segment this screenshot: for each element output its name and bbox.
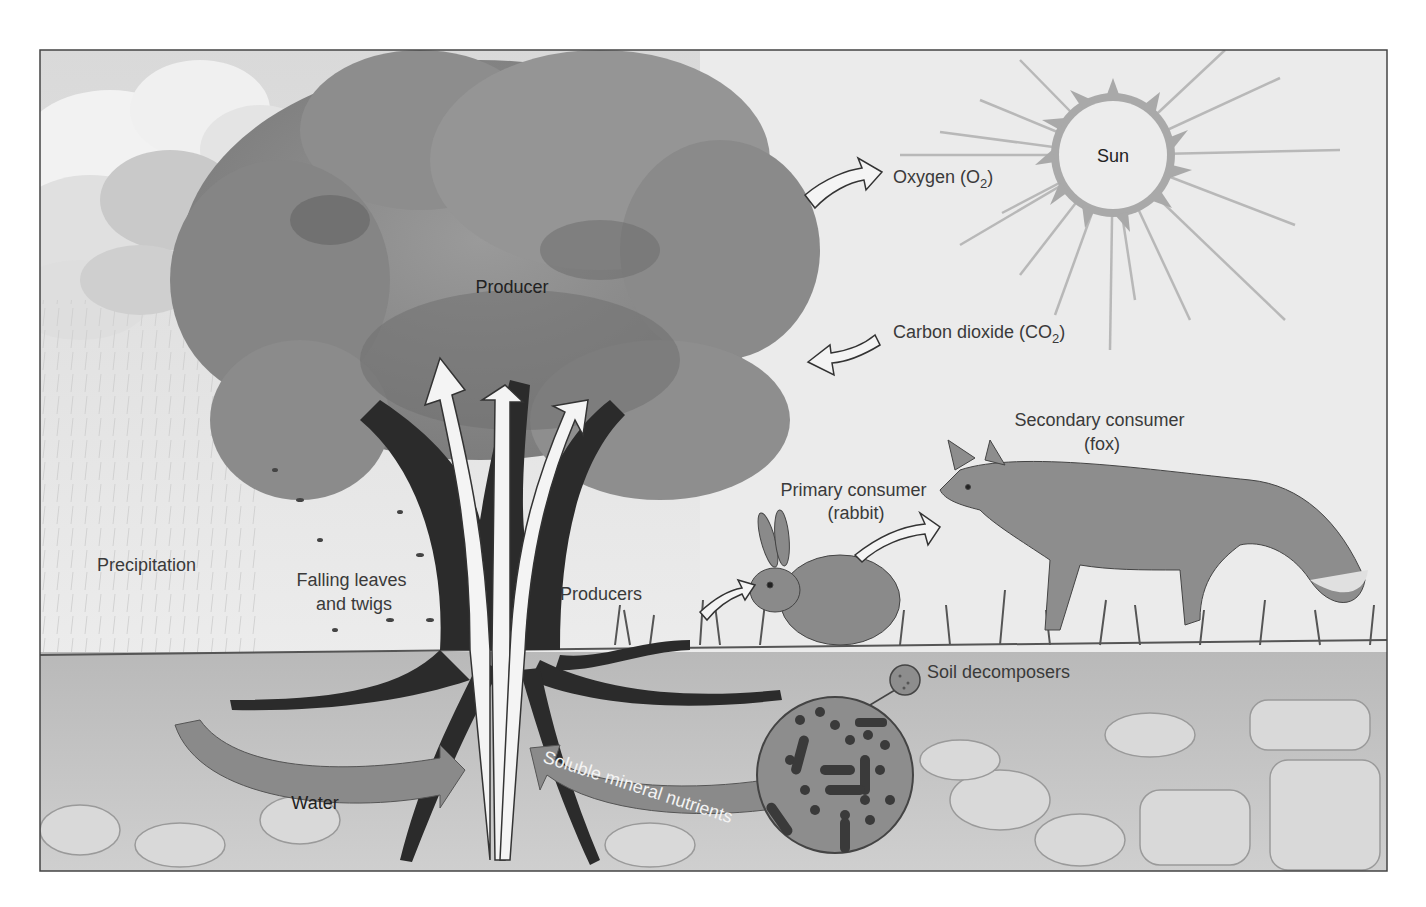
label-producers: Producers [560, 584, 642, 604]
label-water: Water [291, 793, 338, 813]
ecosystem-diagram: Sun Oxygen (O2) Carbon dioxide (CO2) Pro… [0, 0, 1426, 907]
label-precipitation: Precipitation [97, 555, 196, 575]
label-sun: Sun [1097, 146, 1129, 166]
label-producer: Producer [475, 277, 548, 297]
label-soil-decomposers: Soil decomposers [927, 662, 1070, 682]
